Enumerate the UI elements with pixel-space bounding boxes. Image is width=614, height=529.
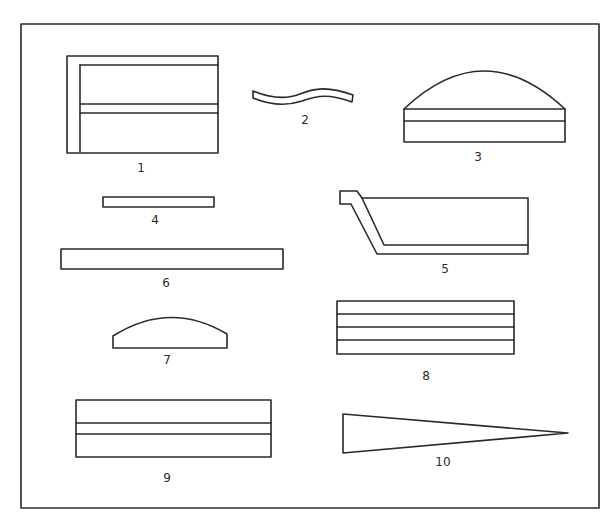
diagram-canvas: 1 2 3 4 5 6 [0,0,614,529]
diagram-frame [21,24,599,508]
shape-label-8: 8 [422,369,430,383]
shape-8: 8 [337,301,514,383]
shape-label-6: 6 [162,276,170,290]
shape-5: 5 [340,191,528,276]
shape-label-4: 4 [151,213,159,227]
shape-label-3: 3 [474,150,482,164]
shape-10: 10 [343,414,568,469]
shape-6: 6 [61,249,283,290]
shape-9: 9 [76,400,271,485]
shape-2: 2 [253,89,353,127]
shape-label-9: 9 [163,471,171,485]
shape-label-7: 7 [163,353,171,367]
shape-4: 4 [103,197,214,227]
shape-label-5: 5 [441,262,449,276]
diagram-svg: 1 2 3 4 5 6 [0,0,614,529]
shape-7: 7 [113,317,227,367]
shape-3: 3 [404,71,565,164]
shape-label-10: 10 [435,455,450,469]
shape-label-1: 1 [137,161,145,175]
shape-1: 1 [67,56,218,175]
shape-label-2: 2 [301,113,309,127]
